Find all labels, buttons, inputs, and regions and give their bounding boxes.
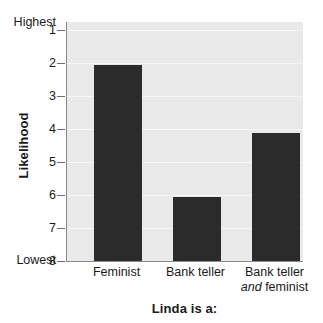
y-axis-tick-mark [57,228,65,229]
x-axis-tick-label-line1: Bank teller [166,265,225,279]
y-axis-tick-mark [57,96,65,97]
plot-area [66,22,303,262]
y-axis-tick-mark [57,162,65,163]
y-axis-tick-mark [57,30,65,31]
y-axis-tick-label: 7 [28,221,56,235]
bar [173,197,221,262]
x-axis-tick-label-line1: Bank teller [245,265,304,279]
y-axis-tick-label: 4 [28,122,56,136]
x-axis-tick-label-line1: Feminist [93,265,140,279]
y-axis-tick-labels: 12345678 [28,0,56,323]
gridline [67,30,303,31]
x-axis-tick-label: Bank tellerand feminist [235,265,314,295]
bar [94,65,142,262]
x-axis-tick-label: Feminist [77,265,156,280]
x-axis-tick-label-emphasis: and [241,280,262,294]
bar-chart: Likelihood Highest Lowest 12345678 Femin… [0,0,323,323]
x-axis-title: Linda is a: [66,301,303,316]
y-axis-tick-label: 2 [28,56,56,70]
y-axis-tick-mark [57,261,65,262]
y-axis-tick-label: 8 [28,254,56,268]
y-axis-tick-label: 1 [28,23,56,37]
y-axis-tick-mark [57,129,65,130]
y-axis-tick-mark [57,63,65,64]
x-axis-tick-label-line2: and feminist [235,280,314,295]
y-axis-tick-label: 5 [28,155,56,169]
y-axis-tick-mark [57,195,65,196]
y-axis-tick-label: 6 [28,188,56,202]
x-axis-tick-labels: FeministBank tellerBank tellerand femini… [66,265,303,299]
bar [252,133,300,262]
y-axis-tick-label: 3 [28,89,56,103]
gridline [67,261,303,262]
x-axis-tick-label: Bank teller [156,265,235,280]
